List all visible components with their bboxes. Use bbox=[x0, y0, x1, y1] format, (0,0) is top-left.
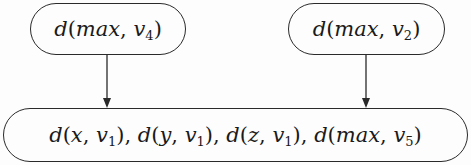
diagram-canvas: d(max, v4) d(max, v2) d(x, v1), d(y, v1)… bbox=[0, 0, 471, 165]
arrowhead-icon bbox=[362, 98, 370, 108]
edge-n2-to-n3 bbox=[362, 55, 370, 108]
node-label: d(x, v1), d(y, v1), d(z, v1), d(max, v5) bbox=[49, 123, 422, 147]
node-label: d(max, v2) bbox=[313, 17, 421, 41]
edge-n1-to-n3 bbox=[103, 55, 111, 108]
node-combined-terms: d(x, v1), d(y, v1), d(z, v1), d(max, v5) bbox=[3, 108, 468, 162]
node-label: d(max, v4) bbox=[54, 17, 162, 41]
node-d-max-v4: d(max, v4) bbox=[30, 3, 186, 55]
node-d-max-v2: d(max, v2) bbox=[288, 3, 445, 55]
arrowhead-icon bbox=[103, 98, 111, 108]
